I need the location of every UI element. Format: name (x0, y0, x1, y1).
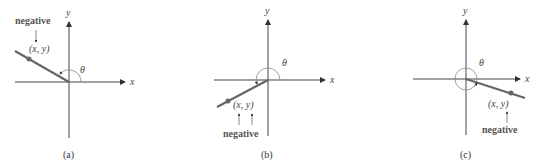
point-dot (226, 99, 231, 104)
y-axis-label: y (462, 5, 468, 16)
theta-label: θ (479, 57, 484, 68)
point-dot (27, 57, 32, 62)
point-dot (509, 91, 514, 96)
x-axis-label: x (329, 74, 335, 85)
point-label: (x, y) (488, 98, 509, 110)
point-label: (x, y) (233, 99, 254, 111)
negative-note: negative (223, 128, 259, 139)
panel-a: x y θ (x, y) negative (a) (15, 7, 135, 160)
angle-arc-tip (256, 80, 257, 84)
figure: x y θ (x, y) negative (a) x y θ (x, y) n… (0, 0, 533, 160)
caption-b: (b) (261, 149, 273, 160)
x-axis-label: x (129, 76, 135, 87)
theta-label: θ (282, 57, 287, 68)
angle-arc-tip (474, 83, 477, 87)
x-axis-label: x (524, 73, 530, 84)
caption-c: (c) (460, 149, 471, 160)
panel-c: x y θ (x, y) negative (c) (413, 5, 530, 160)
caption-a: (a) (63, 149, 74, 160)
angle-arc (60, 70, 81, 82)
negative-note: negative (15, 15, 51, 26)
y-axis-label: y (65, 7, 71, 18)
theta-label: θ (80, 64, 85, 75)
terminal-ray (466, 79, 525, 98)
y-axis-label: y (264, 5, 270, 16)
terminal-ray (15, 51, 69, 82)
panel-b: x y θ (x, y) negative (b) (214, 5, 335, 160)
point-label: (x, y) (29, 43, 50, 55)
negative-note: negative (482, 124, 518, 135)
